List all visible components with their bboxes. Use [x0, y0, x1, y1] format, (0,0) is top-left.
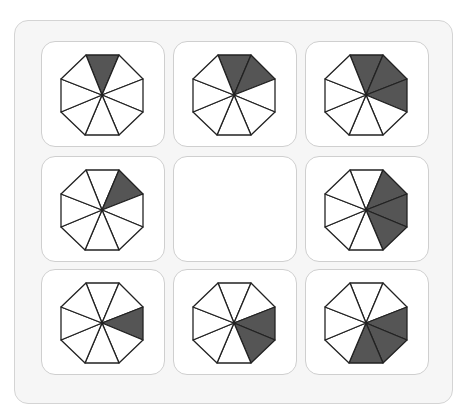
puzzle-cell-r1c1 [41, 41, 165, 147]
puzzle-cell-r2c1 [41, 156, 165, 262]
octagon-icon [174, 270, 296, 374]
puzzle-cell-r3c2 [173, 269, 297, 375]
puzzle-cell-r3c3 [305, 269, 429, 375]
puzzle-panel [14, 20, 453, 404]
puzzle-cell-r2c3 [305, 156, 429, 262]
octagon-icon [174, 42, 296, 146]
octagon-icon [42, 157, 164, 261]
octagon-icon [306, 42, 428, 146]
answer-slot-empty[interactable] [173, 156, 297, 262]
octagon-icon [42, 270, 164, 374]
octagon-icon [306, 157, 428, 261]
octagon-icon [42, 42, 164, 146]
puzzle-cell-r3c1 [41, 269, 165, 375]
octagon-icon [306, 270, 428, 374]
puzzle-cell-r1c3 [305, 41, 429, 147]
puzzle-cell-r1c2 [173, 41, 297, 147]
